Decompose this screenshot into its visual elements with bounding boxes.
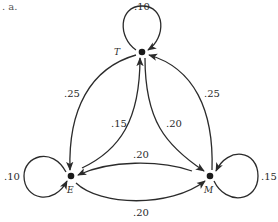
edge-t-to-m bbox=[145, 58, 204, 171]
edge-label-m-m: .15 bbox=[261, 171, 277, 182]
edge-label-m-e: .20 bbox=[133, 149, 149, 160]
edge-label-t-m: .20 bbox=[166, 118, 182, 129]
edge-t-to-t bbox=[123, 6, 161, 50]
node-label-m: M bbox=[203, 185, 214, 195]
node-m bbox=[207, 173, 214, 180]
node-label-e: E bbox=[66, 185, 74, 195]
figure-part-label: . a. bbox=[2, 1, 18, 12]
node-t bbox=[139, 49, 146, 56]
edge-e-to-e bbox=[24, 156, 67, 197]
markov-chain-diagram: . a. .10 .25 .15 .20 .25 .10 .20 .20 .15… bbox=[0, 0, 278, 222]
edge-label-t-e: .25 bbox=[64, 88, 80, 99]
edge-e-to-t bbox=[82, 58, 140, 168]
node-e bbox=[68, 173, 75, 180]
edge-label-e-m: .20 bbox=[133, 207, 149, 218]
edge-label-e-e: .10 bbox=[4, 171, 20, 182]
edge-label-m-t: .25 bbox=[204, 88, 220, 99]
edge-t-to-e bbox=[70, 55, 136, 170]
edge-label-e-t: .15 bbox=[111, 118, 127, 129]
edge-label-t-t: .10 bbox=[134, 1, 150, 12]
edge-m-to-m bbox=[214, 154, 258, 198]
node-label-t: T bbox=[114, 47, 121, 57]
edge-e-to-m bbox=[76, 181, 205, 201]
edge-m-to-e bbox=[78, 163, 192, 175]
